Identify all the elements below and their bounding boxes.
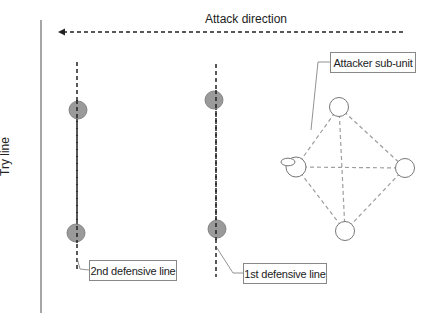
attacker-sub-unit-callout: Attacker sub-unit <box>330 52 416 73</box>
defender-marker <box>67 224 85 242</box>
diagram-canvas <box>0 0 435 329</box>
defender-marker <box>205 91 223 109</box>
first-line-callout-leader <box>217 248 243 273</box>
arrowhead-icon <box>58 29 65 36</box>
ball-icon <box>281 158 295 166</box>
defender-marker <box>208 220 226 238</box>
attacker-marker <box>330 98 349 117</box>
attacker-marker <box>396 159 415 178</box>
first-defensive-line-callout: 1st defensive line <box>243 263 327 284</box>
defender-marker <box>69 101 87 119</box>
second-defensive-line-callout: 2nd defensive line <box>89 260 177 281</box>
try-line-label: Try line <box>0 137 12 176</box>
attack-direction-label: Attack direction <box>205 12 287 26</box>
attacker-callout-leader <box>311 62 330 130</box>
second-line-callout-leader <box>77 258 89 270</box>
attacker-links <box>296 107 405 231</box>
attacker-marker <box>336 222 355 241</box>
